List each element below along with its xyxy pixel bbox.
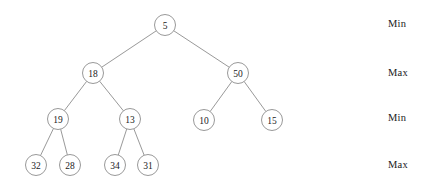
tree-graphic: 518501913101532283431 bbox=[0, 0, 425, 187]
node-value-label: 50 bbox=[233, 69, 243, 79]
tree-edge bbox=[41, 128, 54, 155]
node-value-label: 28 bbox=[65, 161, 75, 171]
tree-edge bbox=[244, 82, 266, 112]
nodes-group: 518501913101532283431 bbox=[26, 15, 283, 176]
tree-node[interactable]: 31 bbox=[138, 155, 159, 176]
tree-edge bbox=[100, 81, 124, 111]
tree-node[interactable]: 10 bbox=[194, 110, 215, 131]
tree-node[interactable]: 34 bbox=[105, 155, 126, 176]
level-label: Max bbox=[388, 159, 408, 170]
tree-edge bbox=[102, 31, 157, 67]
node-value-label: 5 bbox=[163, 21, 168, 31]
node-value-label: 10 bbox=[199, 116, 209, 126]
tree-edge bbox=[134, 129, 144, 155]
edges-group bbox=[41, 31, 266, 156]
tree-node[interactable]: 15 bbox=[262, 110, 283, 131]
level-label: Min bbox=[388, 18, 406, 29]
level-label: Max bbox=[388, 67, 408, 78]
tree-node[interactable]: 18 bbox=[83, 63, 104, 84]
tree-edge bbox=[210, 82, 232, 112]
node-value-label: 19 bbox=[53, 115, 63, 125]
tree-edge bbox=[61, 129, 68, 155]
heap-tree-diagram: 518501913101532283431 MinMaxMinMax bbox=[0, 0, 425, 187]
tree-node[interactable]: 13 bbox=[120, 109, 141, 130]
node-value-label: 13 bbox=[125, 115, 135, 125]
node-value-label: 31 bbox=[143, 161, 153, 171]
tree-node[interactable]: 19 bbox=[48, 109, 69, 130]
tree-node[interactable]: 32 bbox=[26, 155, 47, 176]
tree-edge bbox=[174, 31, 229, 67]
tree-node[interactable]: 50 bbox=[228, 63, 249, 84]
node-value-label: 32 bbox=[31, 161, 41, 171]
tree-node[interactable]: 28 bbox=[60, 155, 81, 176]
tree-node[interactable]: 5 bbox=[155, 15, 176, 36]
node-value-label: 15 bbox=[267, 116, 277, 126]
tree-edge bbox=[64, 81, 86, 110]
node-value-label: 34 bbox=[110, 161, 120, 171]
node-value-label: 18 bbox=[88, 69, 98, 79]
level-label: Min bbox=[388, 112, 406, 123]
tree-edge bbox=[118, 129, 126, 155]
